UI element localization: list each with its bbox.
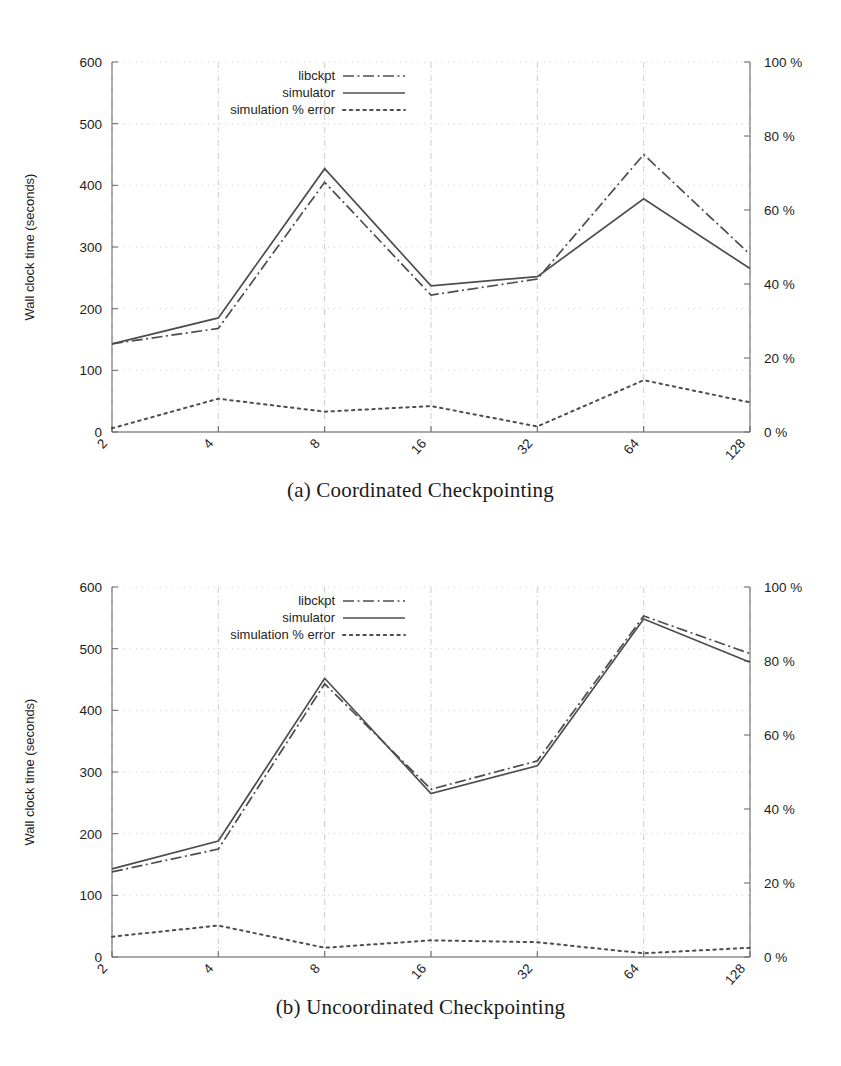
y-axis-tick-label: 200 [79,302,102,317]
y2-axis-tick-label: 20 % [764,351,795,366]
legend-label-simulation-error: simulation % error [230,627,335,642]
x-axis-tick-label: 16 [408,961,429,982]
y2-axis-tick-label: 80 % [764,129,795,144]
legend-label-libckpt: libckpt [298,593,335,608]
legend-label-simulator: simulator [282,85,335,100]
y2-axis-tick-label: 40 % [764,277,795,292]
y-axis-tick-label: 600 [79,580,102,595]
y2-axis-tick-label: 0 % [764,425,787,440]
y-axis-tick-label: 300 [79,240,102,255]
x-axis-tick-label: 8 [307,436,323,452]
y-axis-tick-label: 400 [79,703,102,718]
y-axis-title: Wall clock time (seconds) [22,174,37,321]
x-axis-tick-label: 128 [722,436,748,463]
x-axis-tick-label: 32 [514,436,535,457]
x-axis-tick-label: 4 [200,961,217,977]
figure-uncoordinated-checkpointing: 01002003004005006000 %20 %40 %60 %80 %10… [0,525,841,1066]
y2-axis-tick-label: 60 % [764,203,795,218]
y-axis-tick-label: 500 [79,642,102,657]
x-axis-tick-label: 16 [408,436,429,457]
y-axis-tick-label: 400 [79,178,102,193]
figure-b-caption: (b) Uncoordinated Checkpointing [0,995,841,1020]
y2-axis-tick-label: 60 % [764,728,795,743]
x-axis-tick-label: 8 [307,961,323,977]
legend-label-libckpt: libckpt [298,68,335,83]
legend-label-simulator: simulator [282,610,335,625]
x-axis-tick-label: 4 [200,436,217,452]
chart-b-svg: 01002003004005006000 %20 %40 %60 %80 %10… [0,525,841,995]
y-axis-tick-label: 500 [79,117,102,132]
x-axis-title: Nodes [412,468,450,470]
x-axis-tick-label: 128 [722,961,748,988]
legend-label-simulation-error: simulation % error [230,102,335,117]
x-axis-tick-label: 64 [621,961,643,983]
chart-a-plot-area: 01002003004005006000 %20 %40 %60 %80 %10… [0,0,841,470]
y2-axis-tick-label: 100 % [764,55,802,70]
y2-axis-tick-label: 20 % [764,876,795,891]
figure-a-caption: (a) Coordinated Checkpointing [0,478,841,503]
y-axis-tick-label: 600 [79,55,102,70]
chart-b-plot-area: 01002003004005006000 %20 %40 %60 %80 %10… [0,525,841,995]
y2-axis-tick-label: 40 % [764,802,795,817]
y-axis-tick-label: 300 [79,765,102,780]
y-axis-tick-label: 200 [79,827,102,842]
x-axis-tick-label: 2 [94,436,110,452]
y-axis-tick-label: 100 [79,888,102,903]
x-axis-tick-label: 64 [621,436,643,458]
figure-coordinated-checkpointing: 01002003004005006000 %20 %40 %60 %80 %10… [0,0,841,525]
y2-axis-tick-label: 100 % [764,580,802,595]
y-axis-title: Wall clock time (seconds) [22,699,37,846]
chart-a-svg: 01002003004005006000 %20 %40 %60 %80 %10… [0,0,841,470]
y2-axis-tick-label: 80 % [764,654,795,669]
y-axis-tick-label: 100 [79,363,102,378]
x-axis-tick-label: 32 [514,961,535,982]
y2-axis-tick-label: 0 % [764,950,787,965]
x-axis-tick-label: 2 [94,961,110,977]
